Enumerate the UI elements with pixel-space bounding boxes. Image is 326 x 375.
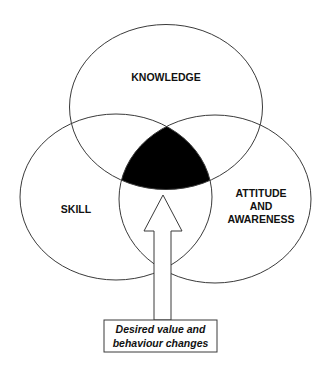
intersection-region: [119, 115, 311, 283]
callout-line1: Desired value and: [116, 323, 206, 335]
skill-label: SKILL: [61, 203, 92, 215]
venn-diagram: KNOWLEDGE SKILL ATTITUDE AND AWARENESS D…: [0, 0, 326, 375]
attitude-label-line2: AND: [250, 200, 273, 212]
knowledge-label: KNOWLEDGE: [131, 71, 200, 83]
callout-line2: behaviour changes: [113, 337, 209, 349]
up-arrow-icon: [144, 195, 182, 320]
attitude-label-line3: AWARENESS: [227, 213, 294, 225]
attitude-label-line1: ATTITUDE: [235, 187, 286, 199]
